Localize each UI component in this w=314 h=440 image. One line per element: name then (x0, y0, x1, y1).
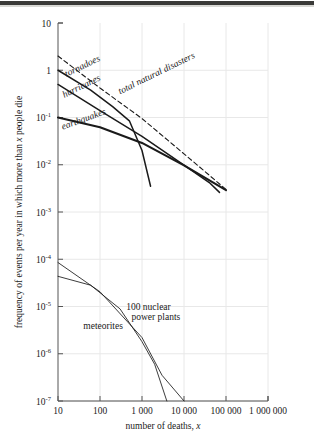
y-tick-label: 10-5 (36, 300, 51, 312)
series-curve (58, 263, 184, 401)
y-tick-label: 1 (46, 66, 51, 76)
x-tick-label: 1 000 (131, 406, 153, 416)
x-tick-label: 10 000 (171, 406, 197, 416)
x-tick-label: 10 (53, 406, 63, 416)
x-tick-label: 100 000 (211, 406, 242, 416)
series-curve (58, 84, 219, 192)
curve-label: power plants (131, 312, 180, 322)
curve-label: meteorites (83, 321, 123, 331)
x-axis-title: number of deaths, x (126, 421, 202, 431)
y-tick-label: 10-7 (36, 395, 52, 407)
x-tick-label: 100 (93, 406, 108, 416)
y-tick-label: 10-1 (36, 111, 51, 123)
curve-label: total natural disasters (117, 50, 197, 96)
figure-container: 101001 00010 000100 0001 000 00010110-11… (0, 0, 314, 440)
series-curve (58, 276, 167, 401)
y-tick-label: 10-2 (36, 158, 51, 170)
y-tick-label: 10-3 (36, 206, 51, 218)
log-log-chart: 101001 00010 000100 0001 000 00010110-11… (0, 0, 314, 440)
curve-label: 100 nuclear (126, 302, 171, 312)
y-tick-label: 10-4 (36, 253, 52, 265)
x-tick-label: 1 000 000 (249, 406, 287, 416)
y-tick-label: 10 (42, 19, 52, 29)
y-axis-title: frequency of events per year in which mo… (14, 96, 24, 328)
y-tick-label: 10-6 (36, 347, 52, 359)
